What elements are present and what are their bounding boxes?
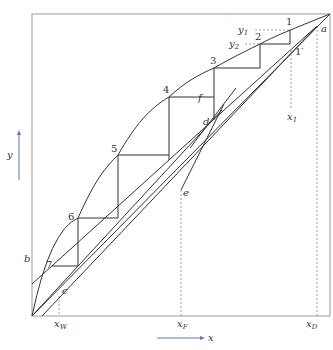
stage-6-label: 6	[68, 211, 74, 222]
rectifying-line	[32, 26, 317, 284]
stage-2-label: 2	[255, 31, 261, 42]
stage-staircase	[52, 30, 290, 266]
y-axis-arrow-icon	[17, 130, 21, 180]
stage-5-label: 5	[111, 143, 117, 154]
stage-7-label: 7	[46, 259, 52, 270]
xw-label: xW	[54, 318, 68, 331]
point-c-label: c	[62, 285, 68, 296]
y-axis-label: y	[6, 149, 13, 160]
stage-1-label: 1	[286, 16, 292, 27]
point-d-label: d	[203, 116, 209, 127]
dashed-guides	[59, 26, 317, 316]
x-axis-label: x	[208, 332, 214, 343]
point-b-label: b	[24, 253, 30, 264]
operating-diagonal	[42, 26, 317, 316]
xd-label: xD	[306, 318, 318, 331]
xf-label: xF	[177, 318, 189, 331]
y1-label: y1	[237, 24, 248, 37]
x-axis-arrow-icon	[157, 336, 205, 340]
stage-4-label: 4	[163, 84, 169, 95]
point-e-label: e	[183, 187, 189, 198]
point-1-prime-label: 1′	[295, 46, 304, 57]
stage-3-label: 3	[210, 55, 216, 66]
y2-label: y2	[228, 38, 240, 51]
point-a-label: a	[321, 23, 327, 34]
mccabe-thiele-diagram: 1 2 3 4 5 6 7 a b c d e f 1′ y1 y2 x1 xW…	[0, 0, 333, 350]
x1-label: x1	[287, 111, 297, 124]
